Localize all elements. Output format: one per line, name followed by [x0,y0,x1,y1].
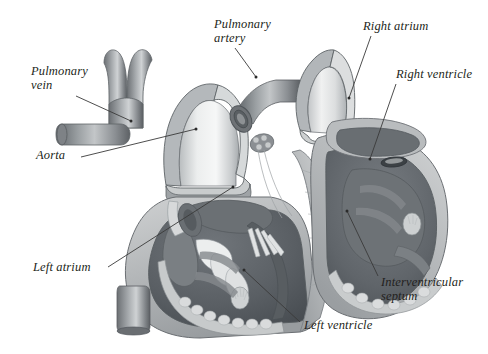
leader-dot-interventricular-septum [346,210,349,213]
leader-dot-right-ventricle [369,158,372,161]
label-left-ventricle: Left ventricle [304,318,372,332]
structure-descending-vessel [117,286,150,335]
label-interventricular-septum: Interventricular septum [381,275,463,303]
leader-dot-aorta [195,128,198,131]
leader-dot-pulmonary-artery [255,76,258,79]
leader-dot-right-atrium [348,97,351,100]
leader-dot-left-ventricle [243,269,246,272]
label-left-atrium: Left atrium [33,260,91,274]
leader-dot-left-atrium [232,186,235,189]
label-pulmonary-artery: Pulmonary artery [214,17,271,45]
label-right-ventricle: Right ventricle [396,67,472,81]
label-pulmonary-vein: Pulmonary vein [31,64,88,92]
label-aorta: Aorta [36,148,65,162]
heart-anatomy-figure: Pulmonary vein Aorta Left atrium Pulmona… [0,0,488,354]
structure-left-heart [125,197,317,338]
leader-dot-pulmonary-vein [130,120,133,123]
label-right-atrium: Right atrium [363,19,428,33]
